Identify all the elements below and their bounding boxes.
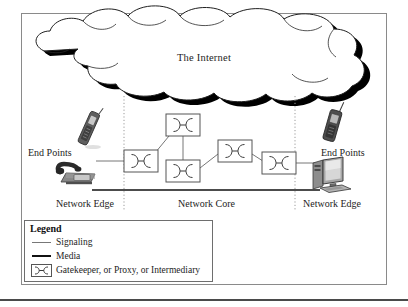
endpoints-label-right: End Points bbox=[321, 147, 365, 158]
gatekeeper-node bbox=[166, 160, 200, 182]
gatekeeper-node bbox=[166, 114, 200, 136]
gatekeeper-node bbox=[218, 140, 252, 162]
zone-label-network-core: Network Core bbox=[178, 198, 235, 209]
legend-item-label: Gatekeeper, or Proxy, or Intermediary bbox=[56, 265, 200, 275]
legend-item-label: Media bbox=[56, 251, 80, 261]
internet-cloud-label: The Internet bbox=[0, 52, 408, 63]
gatekeeper-box-icon bbox=[30, 264, 52, 277]
legend-title: Legend bbox=[30, 223, 208, 235]
signaling-line-icon bbox=[30, 242, 52, 243]
gatekeeper-node bbox=[124, 150, 158, 172]
gatekeeper-node bbox=[262, 152, 296, 174]
zone-label-network-edge-left: Network Edge bbox=[56, 198, 114, 209]
legend: Legend Signaling Media Gatekeepe bbox=[24, 220, 213, 282]
page-bottom-rule bbox=[0, 299, 408, 301]
mobile-phone-left-icon bbox=[77, 104, 103, 146]
endpoints-label-left: End Points bbox=[28, 147, 72, 158]
legend-item-signaling: Signaling bbox=[30, 235, 208, 249]
zone-label-network-edge-right: Network Edge bbox=[303, 198, 361, 209]
legend-item-label: Signaling bbox=[56, 237, 92, 247]
figure-root: The Internet End Points End Points Netwo… bbox=[0, 0, 408, 307]
mobile-phone-left-shadow bbox=[85, 145, 101, 149]
desk-phone-left-icon bbox=[56, 164, 95, 184]
mobile-phone-right-icon bbox=[322, 99, 345, 142]
media-line-icon bbox=[30, 255, 52, 257]
legend-item-gatekeeper: Gatekeeper, or Proxy, or Intermediary bbox=[30, 263, 208, 277]
legend-item-media: Media bbox=[30, 249, 208, 263]
desktop-computer-icon bbox=[313, 157, 351, 193]
